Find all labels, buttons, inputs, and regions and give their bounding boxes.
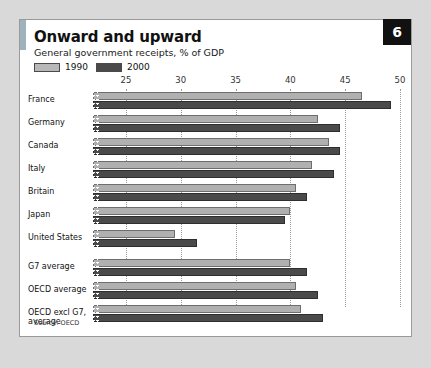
bar-2000 <box>93 239 197 247</box>
legend-label-1990: 1990 <box>65 62 88 72</box>
bar-1990 <box>93 184 296 192</box>
chart-row: Germany <box>20 114 411 136</box>
category-label: Canada <box>28 141 90 150</box>
axis-break-marker <box>93 281 100 301</box>
bar-group <box>93 282 411 302</box>
chart-card: 6 Onward and upward General government r… <box>19 19 412 337</box>
legend-label-2000: 2000 <box>127 62 150 72</box>
bar-2000 <box>93 101 391 109</box>
axis-break-marker <box>93 114 100 134</box>
bar-1990 <box>93 115 318 123</box>
category-label: OECD average <box>28 285 90 294</box>
x-axis-tick-labels: 253035404550 <box>20 75 411 89</box>
bar-group <box>93 161 411 181</box>
bar-2000 <box>93 314 323 322</box>
axis-break-marker <box>93 258 100 278</box>
chart-title: Onward and upward <box>34 28 202 46</box>
bar-2000 <box>93 124 340 132</box>
bar-2000 <box>93 268 307 276</box>
x-tick-label-50: 50 <box>395 75 406 85</box>
chart-bar-rows: FranceGermanyCanadaItalyBritainJapanUnit… <box>20 91 411 327</box>
bar-1990 <box>93 282 296 290</box>
chart-source: Source: OECD <box>34 319 79 327</box>
bar-2000 <box>93 193 307 201</box>
x-tick-label-35: 35 <box>230 75 241 85</box>
x-tick-label-40: 40 <box>285 75 296 85</box>
bar-1990 <box>93 138 329 146</box>
bar-2000 <box>93 147 340 155</box>
chart-row: France <box>20 91 411 113</box>
bar-1990 <box>93 259 290 267</box>
bar-group <box>93 230 411 250</box>
accent-bar <box>20 20 26 50</box>
bar-group <box>93 305 411 325</box>
chart-row: Britain <box>20 183 411 205</box>
bar-1990 <box>93 92 362 100</box>
bar-group <box>93 259 411 279</box>
category-label: Germany <box>28 118 90 127</box>
chart-row: Canada <box>20 137 411 159</box>
axis-break-marker <box>93 206 100 226</box>
axis-break-marker <box>93 160 100 180</box>
axis-break-marker <box>93 91 100 111</box>
bar-group <box>93 207 411 227</box>
legend-item-1990: 1990 <box>34 62 88 72</box>
x-tick-label-45: 45 <box>340 75 351 85</box>
bar-1990 <box>93 305 301 313</box>
axis-break-marker <box>93 229 100 249</box>
category-label: G7 average <box>28 262 90 271</box>
legend-item-2000: 2000 <box>96 62 150 72</box>
chart-plot-area: 253035404550 FranceGermanyCanadaItalyBri… <box>20 75 411 315</box>
chart-row: G7 average <box>20 258 411 280</box>
chart-legend: 1990 2000 <box>34 62 150 72</box>
category-label: United States <box>28 233 90 242</box>
axis-break-marker <box>93 137 100 157</box>
category-label: Japan <box>28 210 90 219</box>
bar-1990 <box>93 230 175 238</box>
chart-row: OECD average <box>20 281 411 303</box>
bar-group <box>93 138 411 158</box>
axis-break-marker <box>93 304 100 324</box>
x-tick-label-30: 30 <box>175 75 186 85</box>
legend-swatch-1990 <box>34 63 60 72</box>
bar-2000 <box>93 291 318 299</box>
category-label: Italy <box>28 164 90 173</box>
category-label: Britain <box>28 187 90 196</box>
bar-group <box>93 184 411 204</box>
bar-1990 <box>93 161 312 169</box>
category-label: France <box>28 95 90 104</box>
chart-row: Japan <box>20 206 411 228</box>
chart-number-badge: 6 <box>383 19 411 45</box>
bar-group <box>93 92 411 112</box>
axis-break-marker <box>93 183 100 203</box>
legend-swatch-2000 <box>96 63 122 72</box>
bar-2000 <box>93 170 334 178</box>
chart-row: Italy <box>20 160 411 182</box>
chart-row: United States <box>20 229 411 251</box>
x-tick-label-25: 25 <box>120 75 131 85</box>
chart-subtitle: General government receipts, % of GDP <box>34 47 224 58</box>
bar-group <box>93 115 411 135</box>
bar-1990 <box>93 207 290 215</box>
bar-2000 <box>93 216 285 224</box>
